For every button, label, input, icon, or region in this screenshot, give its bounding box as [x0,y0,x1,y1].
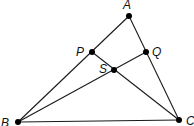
point-P [89,49,95,55]
point-Q [143,49,149,55]
label-B: B [1,116,9,126]
point-C [176,117,182,123]
segment-BC [18,120,179,122]
point-A [126,13,132,19]
label-S: S [99,62,107,76]
triangle-diagram: A P Q S B C [0,0,194,126]
label-A: A [122,0,131,12]
label-C: C [186,114,194,126]
label-P: P [76,45,84,59]
label-Q: Q [152,45,161,59]
segment-AC [129,16,179,120]
point-B [15,119,21,125]
point-S [111,67,117,73]
segment-BQ [18,52,146,122]
